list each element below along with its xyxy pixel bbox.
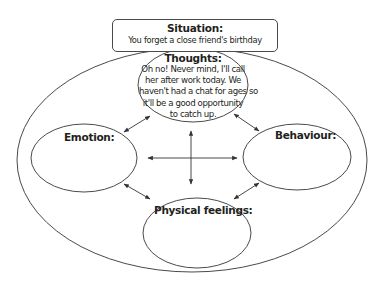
thoughts-node: Thoughts: Oh no! Never mind, I'll call h… xyxy=(139,52,247,120)
arrow-behaviour-physical xyxy=(234,183,259,199)
thoughts-text: Oh no! Never mind, I'll call her after w… xyxy=(139,64,247,120)
emotion-title: Emotion: xyxy=(64,131,114,143)
situation-text: You forget a close friend's birthday xyxy=(113,35,277,46)
thoughts-line: her after work today. We xyxy=(139,75,247,86)
thoughts-line: to catch up. xyxy=(139,109,247,120)
thoughts-title: Thoughts: xyxy=(139,52,247,64)
situation-box: Situation: You forget a close friend's b… xyxy=(112,19,278,52)
arrow-emotion-physical xyxy=(124,184,150,199)
physical-feelings-title: Physical feelings: xyxy=(154,204,252,216)
behaviour-title: Behaviour: xyxy=(275,129,336,141)
thoughts-line: Oh no! Never mind, I'll call xyxy=(139,64,247,75)
situation-title: Situation: xyxy=(113,22,277,35)
thoughts-line: it'll be a good opportunity xyxy=(139,98,247,109)
thoughts-line: haven't had a chat for ages so xyxy=(139,86,247,97)
